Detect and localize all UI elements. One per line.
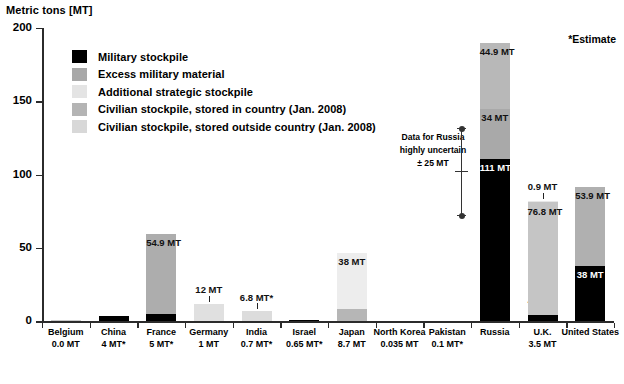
bar-segment-label: 12 MT — [177, 285, 241, 295]
bar-segment[interactable] — [528, 315, 558, 321]
error-bar-midpoint — [455, 171, 468, 172]
legend-item[interactable]: Civilian stockpile, stored in country (J… — [72, 101, 376, 119]
y-tick-label: 200 — [0, 22, 32, 34]
x-axis-label-group: Belgium0.0 MTChina4 MT*France5 MT*German… — [42, 326, 614, 384]
legend-swatch-icon — [72, 103, 87, 116]
bar-germany[interactable]: 12 MT — [194, 304, 224, 322]
bar-segment[interactable] — [289, 320, 319, 322]
x-category-value: 0.1 MT* — [417, 338, 477, 350]
y-axis-title: Metric tons [MT] — [6, 4, 93, 16]
legend-label: Additional strategic stockpile — [98, 86, 253, 98]
uncertainty-line-2: highly uncertain — [381, 144, 485, 157]
legend-item[interactable]: Excess military material — [72, 66, 376, 84]
label-leader-line — [543, 193, 544, 199]
bar-segment[interactable] — [480, 159, 510, 322]
y-tick-label: 50 — [0, 242, 32, 254]
bar-japan[interactable]: 38 MT — [337, 253, 367, 322]
legend-swatch-icon — [72, 85, 87, 98]
bar-segment[interactable] — [528, 201, 558, 203]
bar-segment[interactable] — [51, 320, 81, 322]
bar-segment[interactable] — [575, 187, 605, 266]
x-category-value: 3.5 MT — [513, 338, 573, 350]
y-tick-label: 150 — [0, 95, 32, 107]
russia-uncertainty-annotation: Data for Russia highly uncertain ± 25 MT — [381, 131, 485, 170]
uncertainty-line-3: ± 25 MT — [381, 157, 485, 170]
label-leader-line — [209, 296, 210, 302]
bar-segment[interactable] — [575, 266, 605, 322]
y-tick — [36, 101, 42, 102]
y-tick-label: 0 — [0, 315, 32, 327]
legend-swatch-icon — [72, 68, 87, 81]
x-category-name: United States — [560, 326, 620, 338]
bar-segment[interactable] — [146, 314, 176, 321]
y-axis-line — [42, 28, 44, 323]
legend-item[interactable]: Civilian stockpile, stored outside count… — [72, 118, 376, 136]
bar-segment[interactable] — [99, 316, 129, 322]
legend: Military stockpileExcess military materi… — [72, 48, 376, 136]
bar-segment[interactable] — [480, 43, 510, 109]
y-tick — [36, 175, 42, 176]
y-tick — [36, 248, 42, 249]
legend-swatch-icon — [72, 50, 87, 63]
legend-label: Military stockpile — [98, 51, 188, 63]
legend-label: Civilian stockpile, stored outside count… — [98, 121, 376, 133]
bar-france[interactable]: 54.9 MT — [146, 234, 176, 322]
error-bar-dot-bottom — [459, 213, 465, 219]
bar-china[interactable] — [99, 316, 129, 322]
bar-segment-label: 0.9 MT — [511, 182, 575, 192]
label-leader-line — [257, 303, 258, 309]
legend-swatch-icon — [72, 120, 87, 133]
bar-israel[interactable] — [289, 320, 319, 321]
legend-item[interactable]: Military stockpile — [72, 48, 376, 66]
bar-segment[interactable] — [242, 311, 272, 321]
legend-label: Civilian stockpile, stored in country (J… — [98, 103, 346, 115]
chart-root: Metric tons [MT] *Estimate 54.9 MT12 MT6… — [0, 0, 624, 384]
bar-india[interactable]: 6.8 MT* — [242, 311, 272, 321]
uncertainty-line-1: Data for Russia — [381, 131, 485, 144]
bar-segment[interactable] — [146, 234, 176, 315]
bar-segment-label: 6.8 MT* — [225, 293, 289, 303]
y-tick-label: 100 — [0, 169, 32, 181]
bar-united-states[interactable]: 38 MT53.9 MT — [575, 187, 605, 322]
bar-u-k-[interactable]: 4.4 MT76.8 MT0.9 MT — [528, 201, 558, 321]
bar-segment[interactable] — [337, 253, 367, 309]
y-tick — [36, 28, 42, 29]
bar-segment[interactable] — [194, 304, 224, 322]
legend-label: Excess military material — [98, 68, 225, 80]
bar-segment[interactable] — [337, 309, 367, 322]
legend-item[interactable]: Additional strategic stockpile — [72, 83, 376, 101]
bar-russia[interactable]: 111 MT*34 MT44.9 MT — [480, 43, 510, 322]
x-axis-label-united-states: United States — [560, 326, 620, 338]
bar-segment[interactable] — [528, 202, 558, 315]
error-bar-dot-top — [459, 126, 465, 132]
